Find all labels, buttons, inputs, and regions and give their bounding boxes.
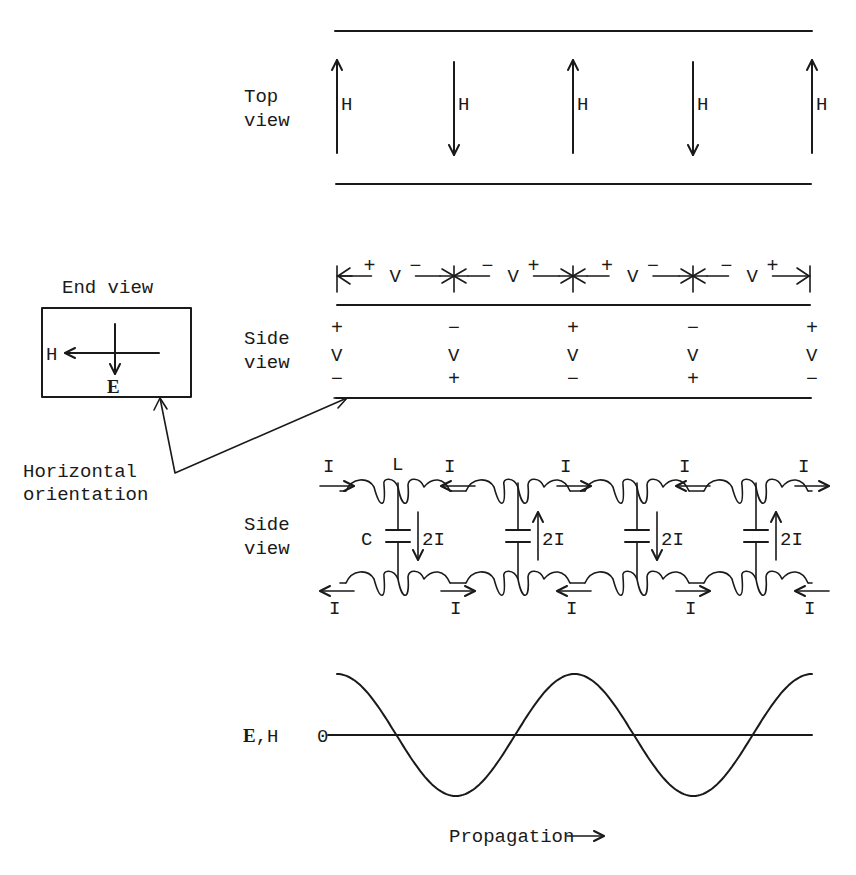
star-junction-icon — [559, 266, 587, 292]
circuit-view-label-line1: Side — [244, 514, 290, 536]
top-view: Top view HHHHH — [244, 31, 827, 184]
current-label: I — [560, 456, 571, 478]
shunt-current-label: 2I — [780, 529, 803, 551]
h-label: H — [697, 94, 708, 116]
polarity-top: + — [806, 317, 818, 340]
current-label: I — [685, 598, 696, 620]
voltage-polarity-columns: +V−−V++V−−V++V− — [331, 317, 818, 391]
star-junction-icon — [679, 266, 707, 292]
current-label: I — [679, 456, 690, 478]
lumped-ladder-circuit: 2I2I2I2ILCIIIIIIIIII — [320, 454, 829, 620]
current-label: I — [329, 598, 340, 620]
side-view-label-line2: view — [244, 352, 290, 374]
capacitor-label: C — [361, 529, 372, 551]
annotation-line2: orientation — [23, 484, 148, 506]
dim-polarity-left: − — [482, 255, 494, 278]
dim-v-label: V — [390, 266, 402, 288]
current-label: I — [444, 456, 455, 478]
current-label: I — [566, 598, 577, 620]
polarity-top: − — [687, 317, 699, 340]
current-label: I — [804, 598, 815, 620]
orientation-annotation: Horizontal orientation — [23, 398, 347, 506]
dim-polarity-left: − — [721, 255, 733, 278]
annotation-line1: Horizontal — [23, 461, 137, 483]
column-v-label: V — [331, 345, 343, 367]
current-label: I — [450, 598, 461, 620]
end-view-h-label: H — [46, 344, 57, 366]
inductor-label: L — [392, 454, 403, 476]
h-label: H — [816, 94, 827, 116]
top-view-label-line1: Top — [244, 86, 278, 108]
dim-polarity-right: − — [647, 255, 659, 278]
shunt-current-label: 2I — [661, 529, 684, 551]
polarity-top: − — [448, 317, 460, 340]
waveform-x-label: Propagation — [449, 826, 574, 848]
column-v-label: V — [687, 345, 699, 367]
annotation-leader-lines — [160, 398, 347, 473]
polarity-bottom: + — [448, 368, 460, 391]
waveform: E,H 0 Propagation — [243, 674, 812, 848]
polarity-bottom: − — [806, 368, 818, 391]
polarity-bottom: − — [567, 368, 579, 391]
end-view-e-label: E — [107, 376, 120, 397]
h-label: H — [341, 94, 352, 116]
current-label: I — [323, 456, 334, 478]
circuit-view-label-line2: view — [244, 538, 290, 560]
h-label: H — [577, 94, 588, 116]
voltage-dimension-line: V+−V−+V+−V−+ — [337, 255, 810, 292]
column-v-label: V — [448, 345, 460, 367]
waveform-y-label-e: E — [243, 725, 256, 746]
side-view-circuit: Side view 2I2I2I2ILCIIIIIIIIII — [244, 454, 829, 620]
h-field-arrows: HHHHH — [337, 60, 827, 155]
dim-polarity-left: + — [364, 255, 376, 278]
polarity-top: + — [331, 317, 343, 340]
h-label: H — [458, 94, 469, 116]
shunt-current-label: 2I — [422, 529, 445, 551]
side-view-label-line1: Side — [244, 328, 290, 350]
dim-polarity-right: + — [767, 255, 779, 278]
dim-v-label: V — [508, 266, 520, 288]
top-view-label-line2: view — [244, 110, 290, 132]
waveform-zero-label: 0 — [317, 726, 328, 748]
dim-polarity-right: + — [528, 255, 540, 278]
end-view-title: End view — [62, 277, 154, 299]
polarity-top: + — [567, 317, 579, 340]
end-view: End view H E — [42, 277, 191, 397]
polarity-bottom: − — [331, 368, 343, 391]
side-view-voltage: Side view V+−V−+V+−V−+ +V−−V++V−−V++V− — [244, 255, 818, 398]
shunt-current-label: 2I — [542, 529, 565, 551]
waveform-y-label: E,H — [243, 725, 279, 748]
waveform-y-label-h: ,H — [256, 726, 279, 748]
dim-polarity-right: − — [410, 255, 422, 278]
column-v-label: V — [567, 345, 579, 367]
polarity-bottom: + — [687, 368, 699, 391]
current-label: I — [798, 456, 809, 478]
dim-v-label: V — [627, 266, 639, 288]
column-v-label: V — [806, 345, 818, 367]
dim-v-label: V — [747, 266, 759, 288]
dim-polarity-left: + — [601, 255, 613, 278]
star-junction-icon — [440, 266, 468, 292]
transmission-line-diagram: Top view HHHHH End view H E Side view V+… — [0, 0, 856, 875]
